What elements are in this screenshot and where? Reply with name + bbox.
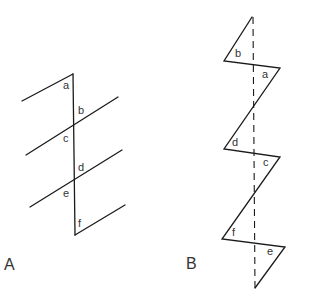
angle-diagram: a b c d e f A b a d c f e B (0, 0, 309, 298)
figure-b-angle-c: c (263, 156, 269, 168)
figure-a-transversal (73, 74, 75, 235)
figure-b-label: B (186, 255, 197, 272)
figure-b-angle-f: f (232, 226, 236, 238)
figure-a-angle-e: e (63, 187, 69, 199)
figure-b-angle-d: d (232, 136, 238, 148)
figure-a-label: A (4, 256, 15, 273)
figure-a-angle-c: c (63, 132, 69, 144)
figure-a-angle-d: d (78, 161, 84, 173)
figure-a: a b c d e f A (4, 74, 125, 273)
figure-b-axis (253, 17, 255, 288)
figure-b: b a d c f e B (186, 17, 285, 288)
figure-b-angle-e: e (267, 245, 273, 257)
figure-b-angle-a: a (262, 68, 269, 80)
figure-b-angle-b: b (235, 47, 241, 59)
figure-a-bottom-line (75, 205, 125, 235)
figure-a-line-2 (26, 97, 118, 155)
figure-a-angle-f: f (78, 217, 82, 229)
figure-a-angle-b: b (78, 104, 84, 116)
figure-a-angle-a: a (63, 79, 70, 91)
figure-a-line-3 (30, 150, 122, 207)
